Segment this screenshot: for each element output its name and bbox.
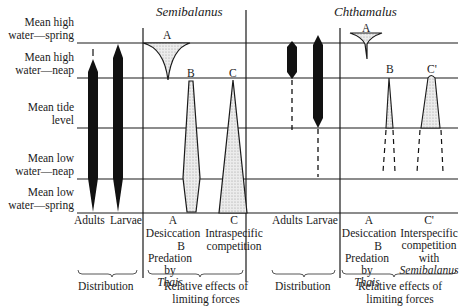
semibalanus-adults-label: Adults <box>74 214 105 227</box>
tide-label-mlwn: Mean lowwater—neap <box>0 152 74 178</box>
chthamalus-distribution-label: Distribution <box>275 280 331 293</box>
tide-label-mtl: Mean tidelevel <box>0 101 74 127</box>
semibalanus-curve-label-b: B <box>187 67 195 80</box>
chthamalus-predation-curve <box>383 78 395 172</box>
chthamalus-desiccation-curve <box>350 33 382 59</box>
semibalanus-predation-curve <box>183 81 200 212</box>
tide-label-mlws: Mean lowwater—spring <box>0 186 74 212</box>
semibalanus-distribution-label: Distribution <box>78 280 134 293</box>
semibalanus-title: Semibalanus <box>156 4 222 20</box>
semibalanus-factor-a: A Desiccation <box>143 214 203 240</box>
semibalanus-limiting-forces-label: Relative effects of limiting forces <box>148 280 264 306</box>
semibalanus-intraspecific-curve <box>219 80 247 213</box>
semibalanus-larvae-label: Larvae <box>110 214 142 227</box>
semibalanus-adults-bar <box>88 49 98 212</box>
semibalanus-curve-label-c: C <box>229 67 237 80</box>
semibalanus-curve-label-a: A <box>163 29 171 42</box>
chthamalus-larvae-bar <box>313 35 323 177</box>
semibalanus-factor-c: C Intraspecific competition <box>203 214 265 253</box>
chthamalus-factor-c: C' Interspecific competition with Semiba… <box>397 214 461 277</box>
chthamalus-adults-bar <box>287 41 297 130</box>
chthamalus-limiting-forces-label: Relative effects of limiting forces <box>342 280 458 306</box>
chthamalus-larvae-label: Larvae <box>306 214 338 227</box>
semibalanus-larvae-bar <box>113 44 123 212</box>
tide-label-mhws: Mean highwater—spring <box>0 16 74 42</box>
tide-label-mhwn: Mean highwater—neap <box>0 51 74 77</box>
chthamalus-title: Chthamalus <box>334 4 397 20</box>
tide-lines <box>77 43 458 213</box>
chthamalus-interspecific-curve <box>417 76 443 173</box>
semibalanus-desiccation-curve <box>143 43 190 80</box>
chthamalus-curve-label-a: A <box>362 22 370 35</box>
chthamalus-adults-label: Adults <box>272 214 303 227</box>
chthamalus-curve-label-b: B <box>386 63 394 76</box>
chthamalus-factor-a: A Desiccation <box>340 214 398 240</box>
chthamalus-curve-label-c: C' <box>427 63 437 76</box>
